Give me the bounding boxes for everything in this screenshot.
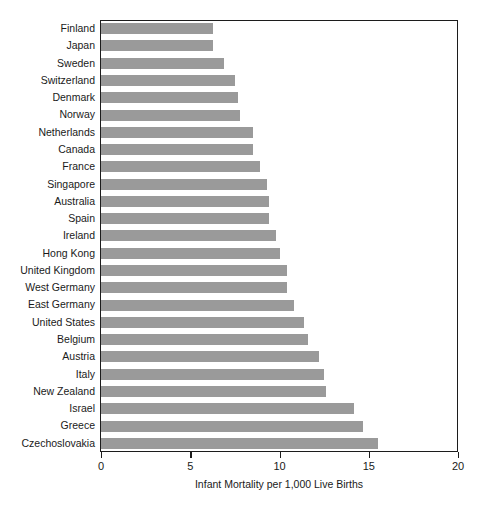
category-label: Canada [0, 141, 95, 158]
bar [101, 92, 238, 103]
x-axis: Infant Mortality per 1,000 Live Births 0… [0, 452, 481, 506]
bar-row: Italy [0, 366, 481, 383]
bar [101, 438, 378, 449]
bar-row: Spain [0, 210, 481, 227]
x-tick-mark [369, 452, 370, 458]
x-tick-mark [280, 452, 281, 458]
category-label: Netherlands [0, 124, 95, 141]
bar-rows-container: FinlandJapanSwedenSwitzerlandDenmarkNorw… [0, 20, 481, 452]
bar-row: East Germany [0, 296, 481, 313]
category-label: Ireland [0, 227, 95, 244]
bar-row: France [0, 158, 481, 175]
bar [101, 403, 354, 414]
category-label: Hong Kong [0, 245, 95, 262]
category-label: Singapore [0, 176, 95, 193]
bar-row: Belgium [0, 331, 481, 348]
category-label: Spain [0, 210, 95, 227]
bar-row: Finland [0, 20, 481, 37]
bar [101, 230, 276, 241]
category-label: Japan [0, 37, 95, 54]
bar [101, 265, 287, 276]
category-label: France [0, 158, 95, 175]
bar [101, 386, 326, 397]
category-label: East Germany [0, 296, 95, 313]
bar [101, 58, 224, 69]
bar-row: Canada [0, 141, 481, 158]
bar-row: Japan [0, 37, 481, 54]
x-tick-label: 5 [170, 460, 210, 472]
category-label: Czechoslovakia [0, 435, 95, 452]
category-label: Australia [0, 193, 95, 210]
bar-row: Australia [0, 193, 481, 210]
bar-row: United Kingdom [0, 262, 481, 279]
category-label: Switzerland [0, 72, 95, 89]
category-label: New Zealand [0, 383, 95, 400]
bar [101, 334, 308, 345]
bar [101, 40, 213, 51]
bar [101, 317, 304, 328]
bar-row: Switzerland [0, 72, 481, 89]
bar-row: Israel [0, 400, 481, 417]
category-label: Sweden [0, 55, 95, 72]
bar [101, 248, 280, 259]
bar-row: Denmark [0, 89, 481, 106]
x-tick-label: 20 [438, 460, 478, 472]
x-tick-label: 0 [81, 460, 121, 472]
bar [101, 351, 319, 362]
x-tick-mark [101, 452, 102, 458]
x-tick-label: 15 [349, 460, 389, 472]
x-tick-mark [190, 452, 191, 458]
x-axis-title: Infant Mortality per 1,000 Live Births [100, 478, 458, 490]
bar-row: Norway [0, 106, 481, 123]
bar [101, 179, 267, 190]
bar [101, 196, 269, 207]
infant-mortality-bar-chart: FinlandJapanSwedenSwitzerlandDenmarkNorw… [0, 0, 481, 506]
bar-row: Sweden [0, 55, 481, 72]
bar-row: Ireland [0, 227, 481, 244]
category-label: Austria [0, 348, 95, 365]
bar [101, 23, 213, 34]
category-label: Finland [0, 20, 95, 37]
bar [101, 300, 294, 311]
x-tick-mark [458, 452, 459, 458]
bar [101, 161, 260, 172]
bar-row: Hong Kong [0, 245, 481, 262]
bar-row: Austria [0, 348, 481, 365]
category-label: Norway [0, 106, 95, 123]
category-label: West Germany [0, 279, 95, 296]
bar [101, 421, 363, 432]
bar-row: Czechoslovakia [0, 435, 481, 452]
bar-row: United States [0, 314, 481, 331]
category-label: Denmark [0, 89, 95, 106]
bar [101, 75, 235, 86]
bar-row: Greece [0, 417, 481, 434]
bar [101, 127, 253, 138]
bar [101, 110, 240, 121]
bar [101, 144, 253, 155]
category-label: United Kingdom [0, 262, 95, 279]
bar-row: New Zealand [0, 383, 481, 400]
category-label: Belgium [0, 331, 95, 348]
category-label: Italy [0, 366, 95, 383]
category-label: Israel [0, 400, 95, 417]
bar [101, 369, 324, 380]
bar [101, 213, 269, 224]
bar-row: Netherlands [0, 124, 481, 141]
bar-row: Singapore [0, 176, 481, 193]
bar [101, 282, 287, 293]
category-label: United States [0, 314, 95, 331]
x-tick-label: 10 [260, 460, 300, 472]
bar-row: West Germany [0, 279, 481, 296]
category-label: Greece [0, 417, 95, 434]
